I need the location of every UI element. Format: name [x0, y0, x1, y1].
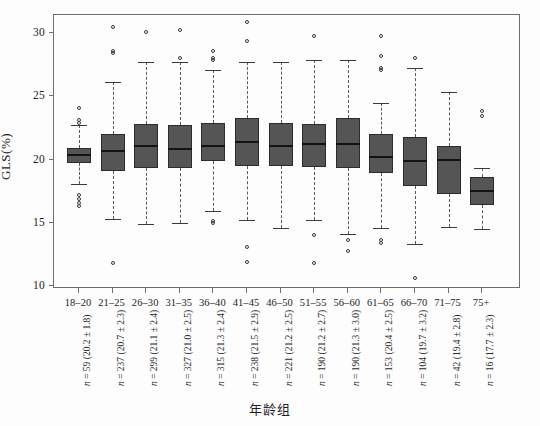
x-tick-label: 18–20: [65, 297, 92, 308]
sample-size-annotation: n = 237 (20.7 ± 2.3): [116, 310, 126, 386]
whisker-upper: [79, 125, 80, 148]
whisker-lower: [415, 186, 416, 244]
whisker-upper: [449, 92, 450, 145]
whisker-upper: [482, 168, 483, 177]
cap-upper: [441, 92, 457, 93]
boxplot-group: [235, 15, 259, 287]
y-tick-label: 20: [11, 153, 45, 165]
x-axis-title: 年龄组: [0, 399, 540, 418]
outlier-point: [144, 30, 148, 34]
outlier-point: [211, 221, 215, 225]
median-line: [470, 190, 494, 192]
cap-lower: [105, 219, 121, 220]
plot-frame: [53, 14, 520, 288]
outlier-point: [111, 25, 115, 29]
y-tick-mark: [49, 95, 53, 96]
y-tick-label: 10: [11, 279, 45, 291]
outlier-point: [480, 114, 484, 118]
whisker-lower: [281, 166, 282, 228]
outlier-point: [379, 54, 383, 58]
x-tick-mark: [448, 288, 449, 293]
x-tick-mark: [212, 288, 213, 293]
cap-lower: [172, 223, 188, 224]
x-tick-label: 66–70: [401, 297, 428, 308]
y-tick-mark: [49, 159, 53, 160]
median-line: [134, 145, 158, 147]
outlier-point: [111, 51, 115, 55]
whisker-upper: [146, 62, 147, 124]
median-line: [336, 143, 360, 145]
y-tick-mark: [49, 222, 53, 223]
outlier-point: [77, 106, 81, 110]
box-iqr: [302, 124, 326, 167]
outlier-point: [211, 58, 215, 62]
y-tick-label: 30: [11, 26, 45, 38]
box-iqr: [101, 134, 125, 171]
whisker-lower: [180, 168, 181, 222]
x-tick-label: 36–40: [199, 297, 226, 308]
median-line: [302, 143, 326, 145]
cap-upper: [71, 125, 87, 126]
whisker-upper: [213, 70, 214, 123]
x-tick-label: 46–50: [266, 297, 293, 308]
cap-lower: [407, 244, 423, 245]
x-tick-mark: [78, 288, 79, 293]
cap-lower: [373, 228, 389, 229]
outlier-point: [312, 261, 316, 265]
boxplot-group: [67, 15, 91, 287]
boxplot-group: [369, 15, 393, 287]
x-tick-label: 61–65: [367, 297, 394, 308]
outlier-point: [312, 34, 316, 38]
x-tick-mark: [112, 288, 113, 293]
outlier-point: [77, 121, 81, 125]
outlier-point: [379, 34, 383, 38]
plot-area: [54, 15, 519, 287]
outlier-point: [379, 68, 383, 72]
whisker-lower: [449, 194, 450, 227]
outlier-point: [245, 260, 249, 264]
outlier-point: [346, 249, 350, 253]
outlier-point: [312, 233, 316, 237]
outlier-point: [480, 109, 484, 113]
cap-lower: [273, 228, 289, 229]
whisker-lower: [113, 171, 114, 219]
whisker-upper: [381, 103, 382, 135]
outlier-point: [413, 56, 417, 60]
median-line: [67, 154, 91, 156]
box-iqr: [437, 146, 461, 194]
whisker-upper: [415, 68, 416, 136]
boxplot-group: [302, 15, 326, 287]
whisker-upper: [314, 60, 315, 125]
sample-size-annotation: n = 190 (21.3 ± 3.0): [351, 310, 361, 386]
outlier-point: [245, 20, 249, 24]
outlier-point: [77, 204, 81, 208]
median-line: [437, 159, 461, 161]
y-tick-label: 25: [11, 89, 45, 101]
whisker-upper: [281, 62, 282, 123]
box-iqr: [201, 123, 225, 161]
outlier-point: [178, 56, 182, 60]
boxplot-figure: GLS(%) 1015202530 18–20n = 59 (20.2 ± 1.…: [0, 0, 540, 426]
x-tick-label: 41–45: [233, 297, 260, 308]
sample-size-annotation: n = 16 (17.7 ± 2.3): [485, 314, 495, 386]
sample-size-annotation: n = 299 (21.1 ± 2.4): [149, 310, 159, 386]
median-line: [235, 141, 259, 143]
whisker-lower: [381, 173, 382, 227]
x-tick-mark: [145, 288, 146, 293]
cap-lower: [441, 227, 457, 228]
cap-lower: [340, 234, 356, 235]
whisker-lower: [213, 161, 214, 212]
cap-lower: [138, 224, 154, 225]
sample-size-annotation: n = 104 (19.7 ± 3.2): [418, 310, 428, 386]
boxplot-group: [168, 15, 192, 287]
x-tick-mark: [246, 288, 247, 293]
cap-upper: [105, 82, 121, 83]
x-tick-mark: [280, 288, 281, 293]
x-tick-label: 51–55: [300, 297, 327, 308]
whisker-lower: [348, 168, 349, 234]
box-iqr: [369, 134, 393, 173]
cap-upper: [273, 62, 289, 63]
x-tick-label: 75+: [473, 297, 490, 308]
cap-lower: [71, 184, 87, 185]
whisker-lower: [79, 163, 80, 183]
